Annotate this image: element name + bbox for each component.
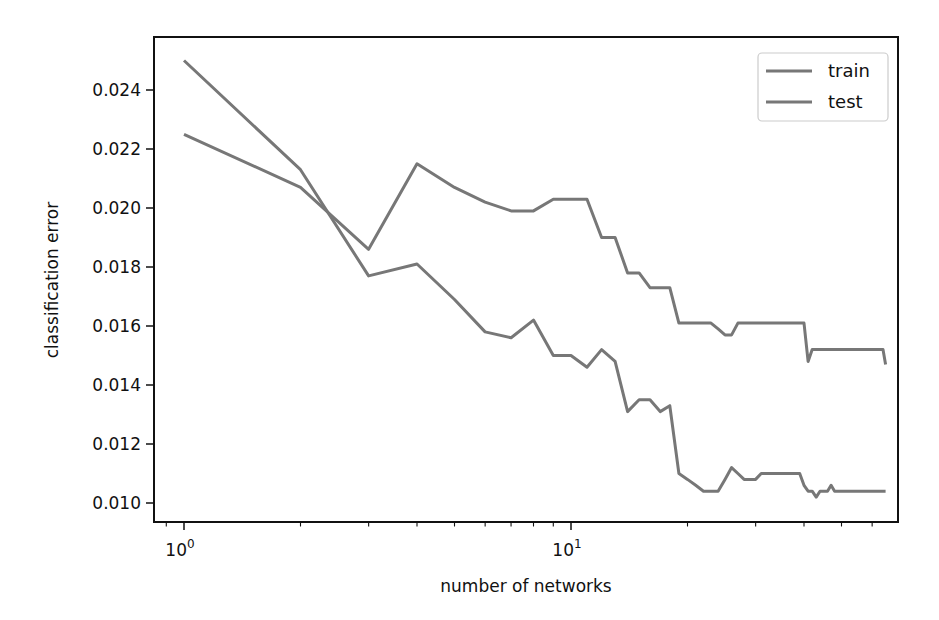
x-axis-label: number of networks [440, 576, 612, 596]
y-axis-label: classification error [42, 202, 62, 359]
y-tick-label: 0.018 [92, 257, 141, 277]
legend-label-train: train [828, 60, 870, 81]
legend-label-test: test [828, 91, 863, 112]
y-tick-label: 0.010 [92, 493, 141, 513]
y-tick-label: 0.022 [92, 139, 141, 159]
y-tick-label: 0.016 [92, 316, 141, 336]
y-tick-label: 0.020 [92, 198, 141, 218]
y-tick-label: 0.012 [92, 434, 141, 454]
line-chart: 0.0100.0120.0140.0160.0180.0200.0220.024… [0, 0, 939, 620]
y-tick-label: 0.024 [92, 80, 141, 100]
legend: train test [758, 53, 888, 121]
y-tick-label: 0.014 [92, 375, 141, 395]
